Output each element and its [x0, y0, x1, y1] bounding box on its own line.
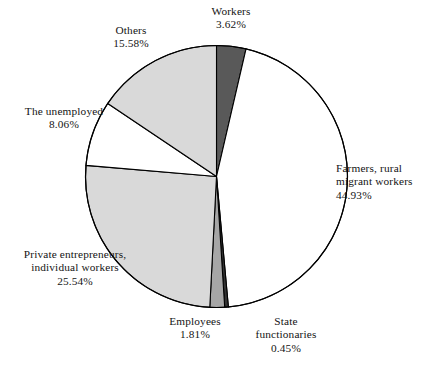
slice-label-state-functionaries-value: 0.45%	[238, 342, 334, 355]
slice-label-private-entrepreneurs-name-2: individual workers	[0, 261, 150, 274]
slice-label-employees: Employees 1.81%	[152, 315, 238, 342]
slice-label-farmers-name-1: Farmers, rural	[336, 162, 434, 175]
slice-label-state-functionaries-name-2: functionaries	[238, 328, 334, 341]
slice-label-employees-name: Employees	[152, 315, 238, 328]
slice-label-farmers-name-2: migrant workers	[336, 175, 434, 188]
slice-label-state-functionaries-name-1: State	[238, 315, 334, 328]
slice-label-the-unemployed: The unemployed 8.06%	[2, 105, 126, 132]
slice-label-farmers: Farmers, rural migrant workers 44.93%	[336, 162, 434, 202]
slice-label-others: Others 15.58%	[86, 24, 176, 51]
slice-label-the-unemployed-value: 8.06%	[2, 118, 126, 131]
slice-label-private-entrepreneurs-value: 25.54%	[0, 275, 150, 288]
slice-label-others-value: 15.58%	[86, 37, 176, 50]
slice-label-private-entrepreneurs: Private entrepreneurs, individual worker…	[0, 248, 150, 288]
slice-label-workers-value: 3.62%	[186, 18, 276, 31]
slice-label-employees-value: 1.81%	[152, 328, 238, 341]
slice-label-workers-name: Workers	[186, 5, 276, 18]
slice-label-state-functionaries: State functionaries 0.45%	[238, 315, 334, 355]
slice-label-farmers-value: 44.93%	[336, 189, 434, 202]
slice-label-workers: Workers 3.62%	[186, 5, 276, 32]
slice-label-private-entrepreneurs-name-1: Private entrepreneurs,	[0, 248, 150, 261]
pie-chart-figure: Workers 3.62% Others 15.58% The unemploy…	[0, 0, 434, 365]
slice-label-others-name: Others	[86, 24, 176, 37]
slice-label-the-unemployed-name: The unemployed	[2, 105, 126, 118]
